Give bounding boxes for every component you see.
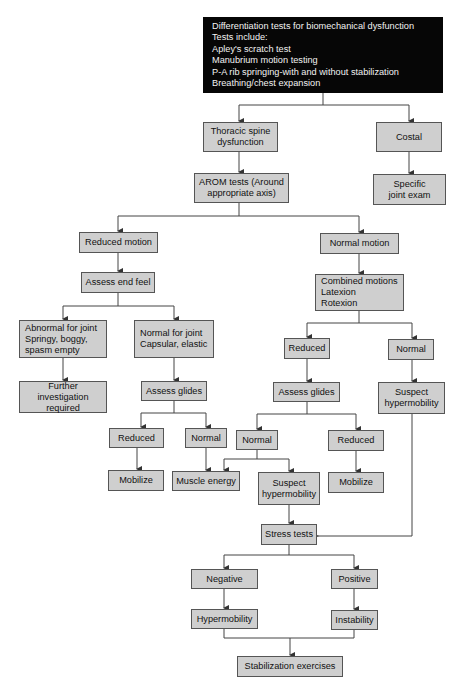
hypermobility-node: Hypermobility	[191, 609, 258, 629]
costal-node: Costal	[376, 122, 442, 152]
muscle-energy-node: Muscle energy	[172, 471, 240, 491]
abnormal-for-joint-node: Abnormal for joint Springy, boggy, spasm…	[19, 320, 107, 358]
header-box: Differentiation tests for biomechanical …	[203, 17, 443, 93]
reduced-mid-node: Reduced	[328, 430, 384, 451]
header-line: Manubrium motion testing	[212, 55, 318, 66]
assess-end-feel-node: Assess end feel	[81, 272, 155, 293]
header-title: Differentiation tests for biomechanical …	[212, 21, 414, 32]
assess-glides-mid-node: Assess glides	[273, 382, 340, 402]
instability-node: Instability	[331, 610, 378, 630]
suspect-hypermobility-right-node: Suspect hypermobility	[378, 382, 445, 414]
arom-tests-node: AROM tests (Around appropriate axis)	[194, 173, 289, 203]
normal-for-joint-node: Normal for joint Capsular, elastic	[134, 320, 214, 358]
positive-node: Positive	[331, 569, 378, 589]
mobilize-mid-node: Mobilize	[328, 472, 384, 493]
reduced-left-node: Reduced	[109, 428, 164, 448]
further-investigation-node: Further investigation required	[19, 381, 107, 413]
reduced-combined-node: Reduced	[284, 338, 330, 359]
assess-glides-left-node: Assess glides	[141, 381, 207, 401]
thoracic-spine-node: Thoracic spine dysfunction	[203, 122, 278, 152]
mobilize-left-node: Mobilize	[108, 470, 164, 491]
normal-left-node: Normal	[185, 428, 227, 448]
header-line: P-A rib springing-with and without stabi…	[212, 67, 399, 78]
normal-mid-node: Normal	[236, 430, 278, 450]
negative-node: Negative	[191, 569, 258, 589]
suspect-hypermobility-mid-node: Suspect hypermobility	[258, 472, 320, 505]
normal-motion-node: Normal motion	[320, 233, 399, 254]
stabilization-exercises-node: Stabilization exercises	[237, 656, 343, 677]
header-line: Breathing/chest expansion	[212, 78, 320, 89]
header-line: Tests include:	[212, 32, 268, 43]
combined-motions-node: Combined motions Latexion Rotexion	[315, 274, 404, 311]
reduced-motion-node: Reduced motion	[79, 232, 158, 253]
specific-joint-exam-node: Specific joint exam	[373, 174, 446, 205]
normal-combined-node: Normal	[388, 339, 434, 360]
header-line: Apley's scratch test	[212, 44, 291, 55]
flowchart: Differentiation tests for biomechanical …	[0, 0, 459, 687]
stress-tests-node: Stress tests	[261, 524, 317, 545]
